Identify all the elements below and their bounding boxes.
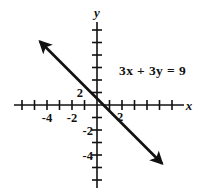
y-tick-label-neg4: -4: [83, 149, 94, 163]
y-axis-label: y: [92, 5, 100, 20]
equation-annotation: 3x + 3y = 9: [119, 63, 186, 78]
x-tick-label-neg2: -2: [67, 111, 77, 125]
y-tick-label-pos2: 2: [77, 86, 83, 100]
y-tick-label-neg2: -2: [83, 124, 93, 138]
line-3x-plus-3y-equals-9: [40, 42, 162, 164]
x-tick-label-pos2: 2: [117, 110, 123, 124]
equation-line-series: [40, 42, 162, 164]
coordinate-graph-figure: x y -4 -2 2 2 -2 -4 3x + 3y = 9: [0, 0, 208, 196]
x-axis-label: x: [185, 98, 193, 113]
graph-canvas: x y -4 -2 2 2 -2 -4 3x + 3y = 9: [0, 0, 208, 196]
x-tick-label-neg4: -4: [42, 111, 53, 125]
